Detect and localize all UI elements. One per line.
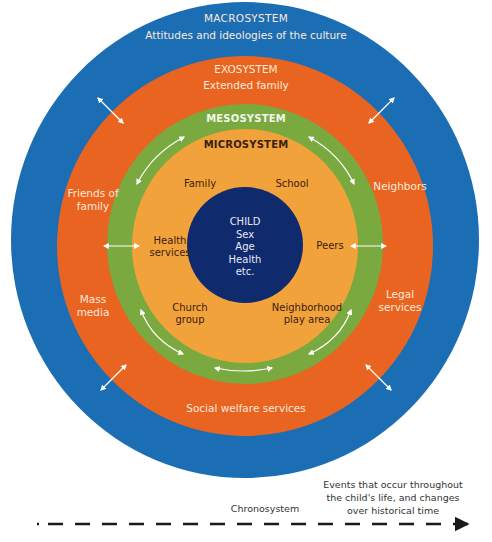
exo-mass-line2: media <box>63 306 123 319</box>
micro-neighborhood-line2: play area <box>262 314 352 326</box>
exo-extended-family: Extended family <box>0 79 492 92</box>
exo-legal-line2: services <box>365 301 435 314</box>
exo-friends-of-family: Friends of family <box>58 187 128 212</box>
mesosystem-title: MESOSYSTEM <box>0 113 492 125</box>
chronosystem-label: Chronosystem <box>215 503 315 514</box>
child-etc: etc. <box>200 266 290 279</box>
chronosystem-desc-line1: Events that occur throughout <box>318 479 468 492</box>
exo-legal-line1: Legal <box>365 288 435 301</box>
exo-mass-line1: Mass <box>63 293 123 306</box>
child-age: Age <box>200 241 290 254</box>
child-health: Health <box>200 254 290 267</box>
chronosystem-desc-line2: the child's life, and changes <box>318 492 468 505</box>
child-attributes: CHILD Sex Age Health etc. <box>200 216 290 279</box>
macrosystem-title: MACROSYSTEM <box>0 12 492 25</box>
micro-church-line2: group <box>160 314 220 326</box>
micro-school: School <box>262 178 322 190</box>
exo-friends-line1: Friends of <box>58 187 128 200</box>
macrosystem-description: Attitudes and ideologies of the culture <box>0 29 492 42</box>
exo-social-welfare-services: Social welfare services <box>0 402 492 415</box>
exo-friends-line2: family <box>58 200 128 213</box>
chronosystem-desc-line3: over historical time <box>318 505 468 518</box>
micro-neighborhood-line1: Neighborhood <box>262 302 352 314</box>
micro-church-group: Church group <box>160 302 220 326</box>
exo-mass-media: Mass media <box>63 293 123 318</box>
micro-health-line1: Health <box>140 235 200 247</box>
micro-peers: Peers <box>305 240 355 252</box>
micro-church-line1: Church <box>160 302 220 314</box>
microsystem-title: MICROSYSTEM <box>0 139 492 151</box>
exo-neighbors: Neighbors <box>360 180 440 193</box>
child-title: CHILD <box>200 216 290 229</box>
micro-health-services: Health services <box>140 235 200 259</box>
micro-family: Family <box>170 178 230 190</box>
micro-health-line2: services <box>140 247 200 259</box>
exo-legal-services: Legal services <box>365 288 435 313</box>
chronosystem-description: Events that occur throughout the child's… <box>318 479 468 517</box>
micro-neighborhood-play-area: Neighborhood play area <box>262 302 352 326</box>
child-sex: Sex <box>200 229 290 242</box>
exosystem-title: EXOSYSTEM <box>0 63 492 76</box>
